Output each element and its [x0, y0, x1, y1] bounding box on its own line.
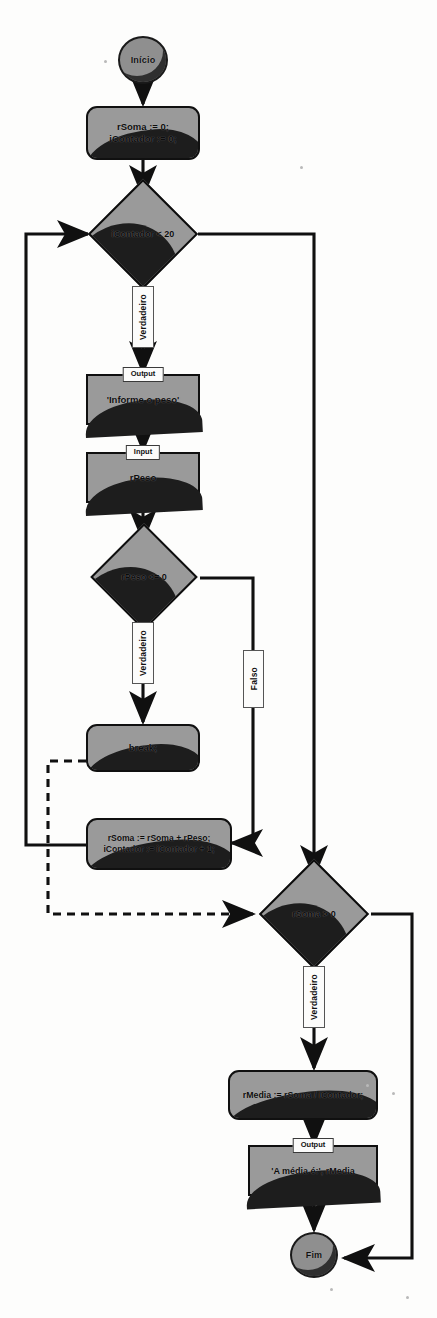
edge-decpeso-acc — [200, 578, 253, 843]
node-input-rpeso-caption: Input — [126, 445, 160, 460]
edge-label-falso-1-text: Falso — [249, 667, 259, 690]
node-decision-contador-label: iContador < 20 — [112, 229, 175, 239]
edge-label-verdadeiro-3-text: Verdadeiro — [309, 974, 319, 1020]
node-break-label: break; — [129, 742, 158, 754]
node-init[interactable]: rSoma := 0; iContador := 0; — [86, 106, 200, 160]
node-media[interactable]: rMedia := rSoma / iContador; — [228, 1070, 378, 1120]
node-start-label: Início — [131, 55, 156, 65]
scan-speck — [366, 1084, 369, 1087]
node-break[interactable]: break; — [86, 724, 200, 772]
node-start[interactable]: Início — [118, 36, 168, 84]
scan-speck — [300, 166, 303, 169]
edge-label-verdadeiro-2: Verdadeiro — [132, 622, 154, 684]
connector-layer — [0, 0, 437, 1318]
node-acumula[interactable]: rSoma := rSoma + rPeso; iContador := iCo… — [86, 818, 232, 870]
node-init-label: rSoma := 0; iContador := 0; — [109, 121, 176, 145]
node-output-informe-peso-caption: Output — [123, 367, 164, 382]
node-media-label: rMedia := rSoma / iContador; — [243, 1089, 364, 1101]
node-input-rpeso[interactable]: Input rPeso — [86, 452, 200, 503]
scan-speck — [392, 1092, 395, 1095]
node-output-informe-peso[interactable]: Output 'Informe o peso' — [86, 374, 200, 425]
node-output-media[interactable]: Output 'A média é:', rMedia — [248, 1145, 378, 1196]
node-acumula-label: rSoma := rSoma + rPeso; iContador := iCo… — [103, 833, 214, 856]
node-output-informe-peso-label: 'Informe o peso' — [107, 394, 180, 406]
node-input-rpeso-label: rPeso — [130, 472, 156, 484]
node-output-media-label: 'A média é:', rMedia — [271, 1165, 354, 1177]
edge-acc-deccont — [26, 234, 88, 845]
node-end[interactable]: Fim — [290, 1232, 338, 1278]
edge-label-verdadeiro-2-text: Verdadeiro — [138, 630, 148, 676]
node-decision-rsoma-label: rSoma > 0 — [292, 909, 335, 919]
edge-label-verdadeiro-3: Verdadeiro — [303, 966, 325, 1028]
node-end-label: Fim — [306, 1250, 323, 1260]
scan-speck — [406, 1296, 409, 1299]
node-decision-contador[interactable]: iContador < 20 — [88, 196, 198, 272]
node-output-media-caption: Output — [293, 1138, 334, 1153]
edge-label-verdadeiro-1: Verdadeiro — [132, 286, 154, 348]
node-decision-rpeso-label: rPeso <= 0 — [121, 572, 167, 582]
edge-label-verdadeiro-1-text: Verdadeiro — [138, 294, 148, 340]
edge-label-falso-1: Falso — [243, 650, 264, 708]
edge-deccont-decsoma — [198, 234, 314, 876]
node-decision-rpeso[interactable]: rPeso <= 0 — [88, 540, 200, 614]
scan-speck — [104, 60, 107, 63]
flowchart-canvas: Início rSoma := 0; iContador := 0; iCont… — [0, 0, 437, 1318]
scan-speck — [330, 1288, 333, 1291]
node-decision-rsoma[interactable]: rSoma > 0 — [257, 876, 371, 952]
